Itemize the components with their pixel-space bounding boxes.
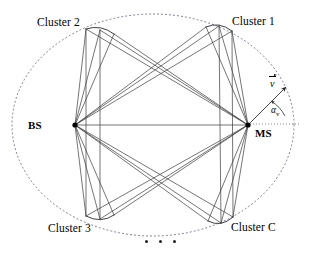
velocity-vector-label: v xyxy=(270,78,274,89)
ray-cluster2-ms-c xyxy=(114,34,248,125)
ray-cluster2-ms-b xyxy=(100,30,248,125)
ray-bs-cluster2-a xyxy=(75,29,86,125)
cluster-label-cluster1: Cluster 1 xyxy=(232,15,275,27)
cluster-label-clusterC: Cluster C xyxy=(231,221,276,233)
bs-node-dot xyxy=(72,122,77,127)
ray-bs-clusterC-c xyxy=(75,125,233,217)
ms-node-dot xyxy=(245,122,250,127)
ellipsis-dot-2 xyxy=(159,240,162,243)
scattering-model-figure: Cluster 2 Cluster 1 Cluster 3 Cluster C … xyxy=(0,0,322,257)
ellipsis-dot-3 xyxy=(173,240,176,243)
chord-cluster1-clusterC-right xyxy=(232,31,233,217)
ray-bs-cluster3-a xyxy=(75,125,86,216)
ray-cluster2-ms-a xyxy=(86,29,248,125)
terminal-label-ms: MS xyxy=(255,127,272,139)
ray-cluster3-ms-a xyxy=(86,125,248,216)
terminal-label-bs: BS xyxy=(28,119,42,131)
velocity-angle-subscript: v xyxy=(276,110,280,118)
propagation-ray-bundles xyxy=(75,25,248,224)
ellipsis-dot-1 xyxy=(145,240,148,243)
ray-cluster1-ms-a xyxy=(206,27,248,125)
ray-bs-clusterC-a xyxy=(75,125,208,221)
ray-bs-cluster1-a xyxy=(75,27,206,125)
velocity-angle-label: αv xyxy=(271,105,280,118)
cluster-label-cluster3: Cluster 3 xyxy=(48,222,91,234)
ray-clusterC-ms-a xyxy=(208,125,248,221)
velocity-symbol: v xyxy=(270,78,274,89)
cluster-label-cluster2: Cluster 2 xyxy=(37,16,80,28)
velocity-vector-arrow xyxy=(250,87,286,123)
ray-bs-cluster1-c xyxy=(75,31,232,125)
scattering-diagram-canvas xyxy=(0,0,322,257)
more-clusters-ellipsis xyxy=(145,240,176,243)
